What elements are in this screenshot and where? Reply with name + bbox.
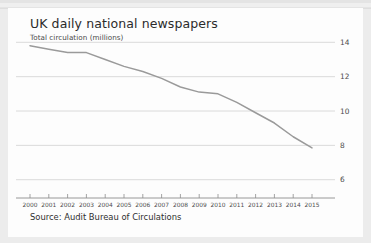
x-tick-label: 2013 bbox=[267, 202, 282, 208]
y-tick-label: 8 bbox=[340, 141, 345, 150]
x-tick-label: 2001 bbox=[41, 202, 56, 208]
x-tick-label: 2000 bbox=[23, 202, 38, 208]
x-tick-label: 2009 bbox=[192, 202, 207, 208]
x-tick-label: 2004 bbox=[98, 202, 113, 208]
y-tick-label: 14 bbox=[340, 38, 350, 47]
x-tick-label: 2002 bbox=[60, 202, 75, 208]
y-tick-label: 6 bbox=[340, 175, 345, 184]
screenshot-root: UK daily national newspapers Total circu… bbox=[0, 0, 371, 243]
x-tick-label: 2007 bbox=[154, 202, 169, 208]
y-tick-label: 12 bbox=[340, 72, 349, 81]
line-chart: 14121086 2000200120022003200420052006200… bbox=[8, 8, 363, 237]
x-tick-label: 2005 bbox=[117, 202, 132, 208]
source-note: Source: Audit Bureau of Circulations bbox=[30, 212, 181, 222]
x-tick-label: 2010 bbox=[211, 202, 226, 208]
chart-line-series bbox=[30, 46, 312, 148]
chart-gridlines bbox=[16, 42, 335, 179]
x-tick-label: 2011 bbox=[229, 202, 244, 208]
chart-x-axis bbox=[16, 194, 335, 198]
browser-chrome-strip-inner bbox=[0, 3, 371, 7]
x-tick-label: 2003 bbox=[79, 202, 94, 208]
x-tick-label: 2006 bbox=[135, 202, 150, 208]
chart-x-axis-labels: 2000200120022003200420052006200720082009… bbox=[23, 202, 320, 208]
chart-y-axis-labels: 14121086 bbox=[340, 38, 350, 184]
y-tick-label: 10 bbox=[340, 107, 350, 116]
chart-card: UK daily national newspapers Total circu… bbox=[8, 8, 363, 237]
x-tick-label: 2012 bbox=[248, 202, 263, 208]
x-tick-label: 2014 bbox=[286, 202, 301, 208]
x-tick-label: 2015 bbox=[305, 202, 320, 208]
x-tick-label: 2008 bbox=[173, 202, 188, 208]
